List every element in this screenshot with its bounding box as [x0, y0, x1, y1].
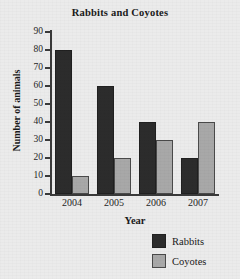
- y-axis-tick-label: 20: [20, 153, 43, 163]
- y-axis-tick-label-text: 60: [21, 81, 43, 91]
- x-axis-tick-label: 2007: [177, 197, 219, 208]
- y-axis-tick-label-text: 70: [21, 63, 43, 73]
- plot-area: [51, 32, 219, 194]
- x-axis-tick-label: 2006: [135, 197, 177, 208]
- legend-label-coyotes: Coyotes: [172, 256, 206, 267]
- y-axis-tick-label: 40: [20, 117, 43, 127]
- bar-coyotes-2005: [114, 158, 131, 194]
- bar-rabbits-2004: [55, 50, 72, 194]
- y-axis-tick-label-text: 80: [21, 45, 43, 55]
- y-axis-tick-label: 50: [20, 99, 43, 109]
- chart-legend: RabbitsCoyotes: [152, 231, 206, 271]
- y-axis-tick-label: 10: [20, 171, 43, 181]
- legend-swatch-rabbits: [152, 234, 166, 248]
- legend-swatch-coyotes: [152, 254, 166, 268]
- bar-group: [51, 32, 93, 194]
- bar-group: [177, 32, 219, 194]
- legend-label-rabbits: Rabbits: [172, 236, 204, 247]
- y-axis-tick-label: 0: [20, 189, 43, 199]
- bar-rabbits-2007: [181, 158, 198, 194]
- legend-item-coyotes: Coyotes: [152, 251, 206, 271]
- bar-rabbits-2006: [139, 122, 156, 194]
- chart-title: Rabbits and Coyotes: [0, 7, 240, 18]
- legend-item-rabbits: Rabbits: [152, 231, 206, 251]
- y-axis-tick-label: 80: [20, 45, 43, 55]
- x-axis-tick-label: 2005: [93, 197, 135, 208]
- y-axis-tick-label-text: 30: [21, 135, 43, 145]
- y-axis-tick-label-text: 90: [21, 27, 43, 37]
- x-axis-line: [50, 194, 219, 196]
- y-axis-tick-label-text: 0: [21, 189, 43, 199]
- bar-group: [93, 32, 135, 194]
- bar-coyotes-2007: [198, 122, 215, 194]
- y-axis-tick-label: 70: [20, 63, 43, 73]
- bar-coyotes-2006: [156, 140, 173, 194]
- y-axis-tick-label-text: 50: [21, 99, 43, 109]
- bar-group: [135, 32, 177, 194]
- y-axis-tick-label-text: 40: [21, 117, 43, 127]
- y-axis-tick-label-text: 10: [21, 171, 43, 181]
- bar-rabbits-2005: [97, 86, 114, 194]
- y-axis-tick-label: 30: [20, 135, 43, 145]
- x-axis-tick-label: 2004: [51, 197, 93, 208]
- bar-coyotes-2004: [72, 176, 89, 194]
- y-axis-tick-label: 60: [20, 81, 43, 91]
- y-axis-tick-label-text: 20: [21, 153, 43, 163]
- x-axis-title: Year: [51, 215, 219, 226]
- bar-chart-figure: Rabbits and Coyotes Number of animals 01…: [0, 0, 240, 279]
- y-axis-tick-label: 90: [20, 27, 43, 37]
